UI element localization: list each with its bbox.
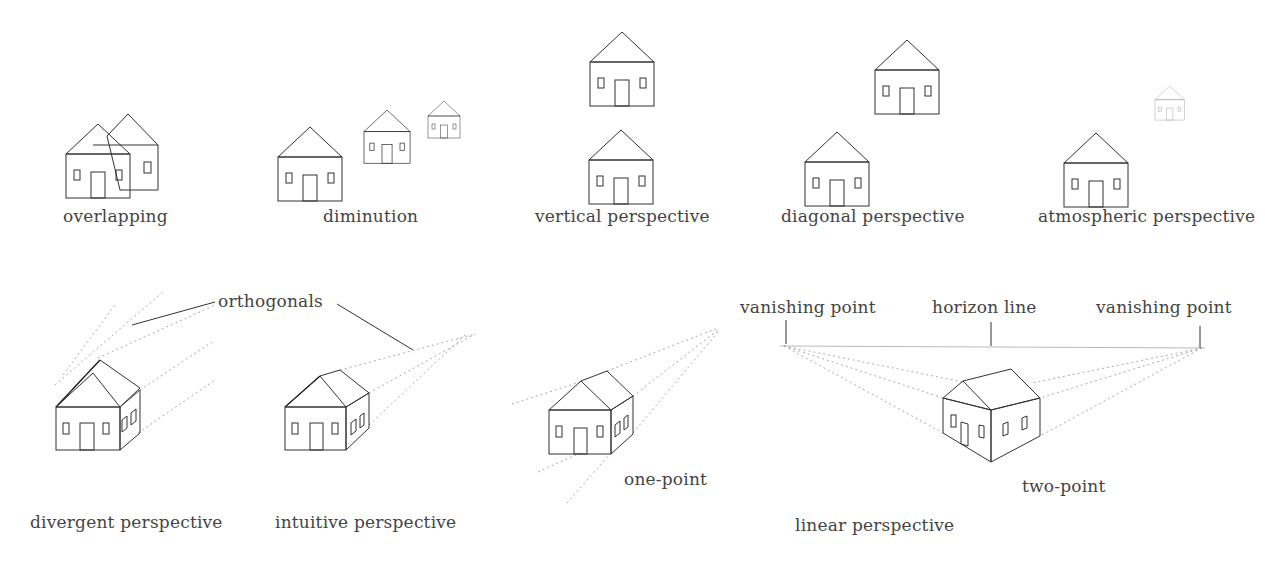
label-atmospheric-perspective: atmospheric perspective	[1038, 206, 1255, 226]
orthogonals-pointer-left	[132, 302, 215, 325]
label-divergent-perspective: divergent perspective	[30, 512, 223, 532]
label-linear-perspective: linear perspective	[795, 515, 954, 535]
label-orthogonals: orthogonals	[218, 291, 323, 311]
house-overlapping-back	[93, 114, 158, 190]
house-vertical-top	[590, 32, 654, 106]
perspective-diagram: overlapping diminution vertical perspect…	[0, 0, 1265, 563]
label-intuitive-perspective: intuitive perspective	[275, 512, 456, 532]
house-diminution-medium	[364, 110, 410, 163]
label-one-point: one-point	[624, 469, 707, 489]
house-atmospheric-near	[1064, 133, 1128, 207]
label-horizon-line: horizon line	[932, 297, 1037, 317]
house-intuitive	[285, 334, 475, 450]
label-diagonal-perspective: diagonal perspective	[781, 206, 965, 226]
label-two-point: two-point	[1022, 476, 1106, 496]
orthogonals-pointer-right	[337, 304, 413, 350]
horizon-guides	[780, 320, 1205, 436]
house-diagonal-top	[875, 40, 939, 114]
label-vanishing-point-left: vanishing point	[740, 297, 876, 317]
house-divergent	[55, 290, 215, 450]
label-diminution: diminution	[323, 206, 418, 226]
house-atmospheric-far	[1155, 86, 1184, 120]
label-overlapping: overlapping	[63, 206, 168, 226]
house-diagonal-bottom	[805, 132, 869, 206]
house-overlapping-front	[66, 124, 130, 198]
label-vertical-perspective: vertical perspective	[535, 206, 710, 226]
house-two-point	[943, 369, 1040, 462]
house-vertical-bottom	[589, 130, 653, 204]
house-diminution-small	[428, 101, 460, 138]
house-diminution-large	[278, 127, 342, 201]
label-vanishing-point-right: vanishing point	[1096, 297, 1232, 317]
